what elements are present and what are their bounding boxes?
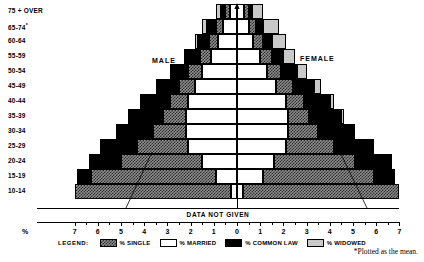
bar-segment-male-married [216,169,237,184]
population-pyramid-chart: 75 + OVER65-74*60-6455-5950-5445-4940-44… [0,0,424,262]
bar-segment-male-single [75,184,232,199]
legend-swatch-single [100,239,117,247]
bar-segment-male-commonlaw [156,79,179,94]
legend-item[interactable]: % COMMON LAW [225,239,297,247]
bar-segment-male-single [121,154,202,169]
legend-item[interactable]: % SINGLE [100,239,151,247]
bar-segment-male-single [225,4,230,19]
bar-segment-female-single [286,139,335,154]
x-tick [167,222,168,226]
x-tick-minor [202,222,203,225]
x-tick-label: 2 [189,228,193,235]
x-tick-minor [179,222,180,225]
bar-segment-female-widowed [353,124,355,139]
bar-segment-female-married [237,34,253,49]
x-tick-minor [225,222,226,225]
bar-segment-male-commonlaw [198,34,210,49]
bar-segment-male-married [202,154,237,169]
bar-segment-male-single [153,124,185,139]
footnote: *Plotted as the mean. [354,248,418,256]
bar-segment-male-commonlaw [170,64,189,79]
bar-segment-male-married [230,4,237,19]
legend-item[interactable]: % MARRIED [160,239,217,247]
bar-segment-female-single [274,154,355,169]
bar-segment-male-commonlaw [89,154,121,169]
x-tick [144,222,145,226]
x-tick-label: 1 [212,228,216,235]
bar-segment-male-married [211,49,237,64]
bar-segment-male-commonlaw [116,124,153,139]
x-tick-minor [388,222,389,225]
bar-segment-female-married [237,49,260,64]
x-tick [121,222,122,226]
x-tick-minor [249,222,250,225]
bar-segment-male-single [163,109,186,124]
bar-segment-male-single [216,19,223,34]
legend-swatch-married [160,239,177,247]
x-tick-label: 7 [397,228,401,235]
x-tick-label: 4 [142,228,146,235]
x-tick [75,222,76,226]
x-tick-minor [109,222,110,225]
bar-segment-male-single [91,169,216,184]
bar-segment-female-commonlaw [355,154,390,169]
bar-segment-female-widowed [272,34,286,49]
bar-segment-female-married [237,109,288,124]
x-tick [237,222,238,226]
x-tick-label: 0 [235,228,239,235]
pyramid-plot-area [0,0,424,208]
bar-segment-female-single [243,184,400,199]
bar-segment-female-commonlaw [318,124,353,139]
bar-segment-male-commonlaw [128,109,163,124]
data-not-given-band: DATA NOT GIVEN [37,208,399,222]
bar-segment-female-single [263,169,374,184]
x-tick-label: 6 [96,228,100,235]
x-tick-minor [86,222,87,225]
x-tick-label: 1 [258,228,262,235]
x-tick-minor [133,222,134,225]
legend-item[interactable]: % WIDOWED [307,239,366,247]
x-tick-minor [156,222,157,225]
legend-label: % COMMON LAW [245,240,297,246]
bar-segment-male-widowed [202,19,207,34]
x-tick [260,222,261,226]
bar-segment-female-widowed [263,19,279,34]
bar-segment-female-single [253,34,262,49]
bar-segment-female-commonlaw [334,139,371,154]
bar-segment-female-single [288,109,309,124]
legend-label: % MARRIED [180,240,217,246]
bar-segment-male-commonlaw [186,49,200,64]
bar-segment-female-commonlaw [304,94,330,109]
bar-segment-female-widowed [297,64,306,79]
x-tick-label: 6 [374,228,378,235]
bar-segment-male-married [186,109,237,124]
bar-segment-male-widowed [195,34,197,49]
x-axis-line [37,222,399,223]
bar-segment-male-commonlaw [221,4,226,19]
bar-segment-male-married [186,124,237,139]
x-tick [353,222,354,226]
bar-segment-female-widowed [372,139,374,154]
legend-label: % WIDOWED [327,240,366,246]
bar-segment-male-commonlaw [140,94,170,109]
bar-segment-female-single [276,79,292,94]
legend-title: LEGEND: [58,240,89,246]
bar-segment-male-married [195,79,237,94]
x-tick-minor [318,222,319,225]
bar-segment-female-commonlaw [374,169,395,184]
x-axis-line-upper [37,208,399,209]
bar-segment-male-single [170,94,189,109]
bar-segment-male-widowed [216,4,221,19]
x-tick-minor [295,222,296,225]
bar-segment-female-married [237,94,286,109]
bar-segment-female-commonlaw [256,19,263,34]
x-tick [376,222,377,226]
bar-segment-male-married [223,19,237,34]
bar-segment-female-widowed [390,154,392,169]
x-tick [307,222,308,226]
bar-segment-female-married [237,4,244,19]
x-tick-minor [365,222,366,225]
x-tick-label: 5 [351,228,355,235]
x-tick-label: 3 [305,228,309,235]
male-side-label: MALE [152,57,176,64]
